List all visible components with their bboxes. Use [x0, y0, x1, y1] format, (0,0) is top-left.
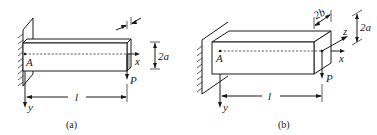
height-label-a: 2a — [158, 50, 170, 62]
point-label-a: A — [25, 56, 33, 68]
height-label-b: 2a — [360, 21, 372, 33]
wall-hatching-a — [18, 34, 23, 86]
load-label-b: P — [325, 72, 333, 84]
y-axis-a — [23, 71, 27, 108]
y-axis-b — [218, 74, 222, 108]
wall-hatching-b — [197, 46, 202, 92]
y-axis-label-b: y — [222, 101, 228, 113]
caption-b: (b) — [278, 119, 290, 131]
x-axis-label-a: x — [134, 55, 140, 67]
panel-a: A x P y l — [18, 17, 170, 131]
load-label-a: P — [129, 74, 137, 86]
point-a-dot — [24, 53, 27, 56]
length-label-b: l — [268, 90, 271, 102]
beam-a — [23, 39, 131, 71]
length-dimension-b — [221, 84, 322, 102]
beam-b — [212, 31, 331, 74]
point-label-b: A — [215, 52, 223, 64]
x-axis-label-b: x — [338, 52, 344, 64]
cantilever-beams-diagram: A x P y l — [0, 0, 377, 135]
caption-a: (a) — [66, 119, 77, 131]
thickness-dimension-a — [116, 17, 141, 30]
panel-b: A x z P y — [197, 5, 372, 131]
length-label-a: l — [75, 91, 78, 103]
y-axis-label-a: y — [27, 101, 33, 113]
z-axis-label-b: z — [342, 25, 348, 37]
